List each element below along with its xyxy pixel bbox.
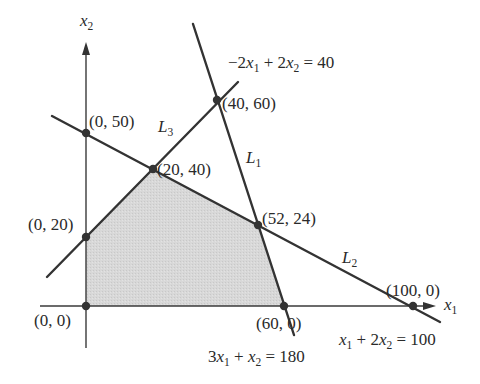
- point-label: (52, 24): [262, 209, 316, 228]
- equation-eq-bottom-right: x1 + 2x2 = 100: [338, 330, 436, 351]
- linear-programming-diagram: x1 x2 L1L2L3 (0, 0)(0, 20)(0, 50)(20, 40…: [0, 0, 480, 384]
- x1-axis-arrow-icon: [423, 302, 436, 310]
- point-label: (20, 40): [157, 160, 211, 179]
- x2-axis-label: x2: [79, 11, 94, 32]
- feasible-region: [86, 169, 284, 306]
- corner-point-dot: [254, 221, 262, 229]
- point-label: (40, 60): [222, 94, 276, 113]
- corner-point-dot: [280, 302, 288, 310]
- point-label: (0, 50): [89, 112, 134, 131]
- line-label-l1: L1: [245, 148, 261, 169]
- equation-eq-top: −2x1 + 2x2 = 40: [228, 53, 334, 74]
- corner-point-dot: [82, 302, 90, 310]
- x2-axis-arrow-icon: [82, 42, 90, 55]
- x1-axis-label: x1: [443, 295, 458, 316]
- corner-point-dot: [82, 233, 90, 241]
- line-label-l2: L2: [341, 248, 357, 269]
- line-label-l3: L3: [157, 117, 173, 138]
- corner-point-dot: [213, 96, 221, 104]
- corner-point-dot: [409, 302, 417, 310]
- equation-eq-bottom-left: 3x1 + x2 = 180: [208, 347, 305, 368]
- point-label: (0, 20): [28, 215, 73, 234]
- point-label: (100, 0): [386, 281, 440, 300]
- point-label: (60, 0): [256, 314, 301, 333]
- corner-point-dot: [149, 165, 157, 173]
- point-label: (0, 0): [34, 311, 71, 330]
